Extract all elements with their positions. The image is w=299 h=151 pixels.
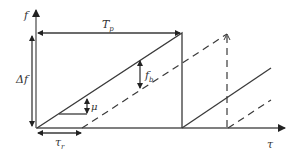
y-axis-label: f bbox=[23, 9, 30, 22]
received-ramp-2 bbox=[228, 100, 271, 128]
slope-label: μ bbox=[91, 101, 98, 112]
period-label: Tp bbox=[102, 18, 114, 33]
x-axis-label: τ bbox=[267, 138, 274, 151]
fmcw-diagram: f τ Tp Δf fb μ τr bbox=[0, 0, 299, 151]
transmitted-ramp-1 bbox=[37, 33, 182, 128]
beat-freq-label: fb bbox=[144, 69, 154, 84]
delay-label: τr bbox=[55, 136, 65, 151]
received-ramp-1 bbox=[82, 34, 227, 128]
bandwidth-label: Δf bbox=[15, 73, 30, 86]
